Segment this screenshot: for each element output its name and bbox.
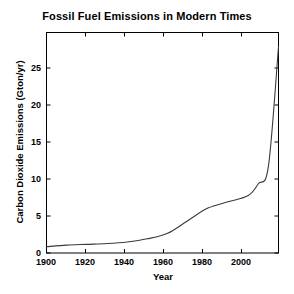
x-tick-label-1960: 1960 [143, 257, 183, 267]
plot-frame [47, 33, 279, 254]
x-tick-label-1900: 1900 [26, 257, 66, 267]
chart-figure: Fossil Fuel Emissions in Modern Times [0, 0, 294, 294]
x-tick-label-2000: 2000 [221, 257, 261, 267]
y-axis-label: Carbon Dioxide Emissions (Gton/yr) [14, 42, 25, 242]
plot-canvas [0, 0, 294, 294]
x-tick-label-1920: 1920 [65, 257, 105, 267]
x-axis-label: Year [46, 271, 280, 282]
x-tick-label-1940: 1940 [104, 257, 144, 267]
x-tick-label-1980: 1980 [182, 257, 222, 267]
